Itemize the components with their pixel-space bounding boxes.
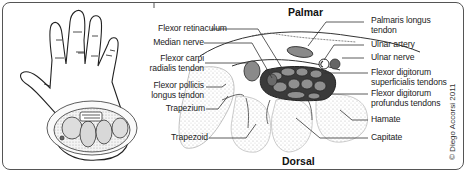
label-line-2: superficialis tendons <box>371 78 447 88</box>
palm-cross-section <box>47 101 137 155</box>
label-line-1: Hamate <box>371 115 401 125</box>
label-ulnar-artery: Ulnar artery <box>371 40 415 50</box>
label-flexor-digitorum-superficialis: Flexor digitorum superficialis tendons <box>371 68 447 87</box>
label-trapezoid: Trapezoid <box>150 133 208 143</box>
label-line-1: Capitate <box>371 133 402 143</box>
label-ulnar-nerve: Ulnar nerve <box>371 53 414 63</box>
label-line-2: radialis tendon <box>140 64 204 74</box>
dorsal-label: Dorsal <box>282 155 315 167</box>
label-text: Trapezoid <box>171 132 208 142</box>
label-text: Flexor retinaculum <box>158 23 227 33</box>
label-median-nerve: Median nerve <box>150 38 204 48</box>
label-capitate: Capitate <box>371 133 402 143</box>
label-trapezium: Trapezium <box>150 104 205 114</box>
copyright-text: © Diego Accorsi 2011 <box>448 84 457 160</box>
label-line-1: Ulnar artery <box>371 40 415 50</box>
label-hamate: Hamate <box>371 115 401 125</box>
palmar-label: Palmar <box>288 6 323 18</box>
label-line-2: tendon <box>371 26 431 36</box>
label-line-2: longus tendon <box>140 91 204 101</box>
label-text: Median nerve <box>153 37 204 47</box>
label-text: Trapezium <box>166 103 205 113</box>
label-flexor-retinaculum: Flexor retinaculum <box>158 24 210 34</box>
label-line-1: Ulnar nerve <box>371 53 414 63</box>
label-line-2: profundus tendons <box>371 99 441 109</box>
label-flexor-pollicis-longus: Flexor pollicis longus tendon <box>140 81 204 100</box>
label-palmaris-longus: Palmaris longus tendon <box>371 16 431 35</box>
label-flexor-carpi-radialis: Flexor carpi radialis tendon <box>140 54 204 73</box>
label-flexor-digitorum-profundus: Flexor digitorum profundus tendons <box>371 89 441 108</box>
